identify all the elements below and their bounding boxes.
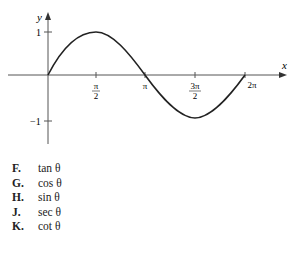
choice-text: tan θ	[38, 161, 60, 176]
y-tick-one: 1	[36, 27, 41, 38]
choice-letter: H.	[12, 190, 38, 205]
choice-text: cos θ	[38, 176, 62, 191]
y-tick-neg-one: −1	[30, 116, 41, 127]
choice-text: sin θ	[38, 190, 60, 205]
choice-text: cot θ	[38, 219, 60, 234]
choice-g[interactable]: G.cos θ	[12, 176, 62, 191]
y-axis-arrow-icon	[45, 12, 51, 20]
x-tick-2pi: 2π	[247, 80, 257, 90]
sine-graph: y x 1 −1 π 2 π 3π 2 2π	[0, 0, 298, 160]
answer-choices: F.tan θ G.cos θ H.sin θ J.sec θ K.cot θ	[12, 161, 62, 234]
choice-letter: J.	[12, 205, 38, 220]
x-tick-pi-half-den: 2	[94, 91, 99, 101]
choice-k[interactable]: K.cot θ	[12, 219, 62, 234]
choice-j[interactable]: J.sec θ	[12, 205, 62, 220]
choice-letter: G.	[12, 176, 38, 191]
choice-letter: K.	[12, 219, 38, 234]
y-axis-label: y	[36, 11, 42, 23]
x-tick-pi-half-num: π	[94, 81, 99, 91]
choice-h[interactable]: H.sin θ	[12, 190, 62, 205]
choice-letter: F.	[12, 161, 38, 176]
x-axis-arrow-icon	[279, 72, 287, 78]
x-tick-3pi-half-num: 3π	[190, 81, 200, 91]
x-axis-label: x	[281, 59, 287, 71]
choice-text: sec θ	[38, 205, 61, 220]
x-tick-3pi-half-den: 2	[193, 91, 198, 101]
choice-f[interactable]: F.tan θ	[12, 161, 62, 176]
x-tick-pi: π	[143, 81, 148, 91]
